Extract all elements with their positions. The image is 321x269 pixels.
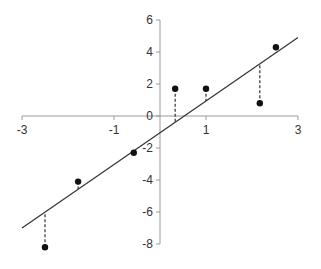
data-point xyxy=(172,86,178,92)
axes xyxy=(22,20,298,244)
x-tick-label: 3 xyxy=(295,123,302,137)
scatter-plot: -3-1136420-2-4-6-8 xyxy=(0,0,321,269)
x-tick-label: -3 xyxy=(17,123,28,137)
x-tick-label: 1 xyxy=(203,123,210,137)
data-point xyxy=(75,178,81,184)
y-tick-label: -4 xyxy=(142,173,153,187)
data-point xyxy=(273,44,279,50)
data-point xyxy=(203,86,209,92)
x-tick-label: -1 xyxy=(109,123,120,137)
data-point xyxy=(131,150,137,156)
y-tick-label: -6 xyxy=(142,205,153,219)
y-tick-label: 0 xyxy=(146,109,153,123)
data-point xyxy=(42,244,48,250)
y-tick-label: 4 xyxy=(146,45,153,59)
data-point xyxy=(257,100,263,106)
y-tick-label: 2 xyxy=(146,77,153,91)
y-tick-label: -8 xyxy=(142,237,153,251)
y-tick-label: -2 xyxy=(142,141,153,155)
y-tick-label: 6 xyxy=(146,13,153,27)
tick-labels: -3-1136420-2-4-6-8 xyxy=(17,13,302,251)
